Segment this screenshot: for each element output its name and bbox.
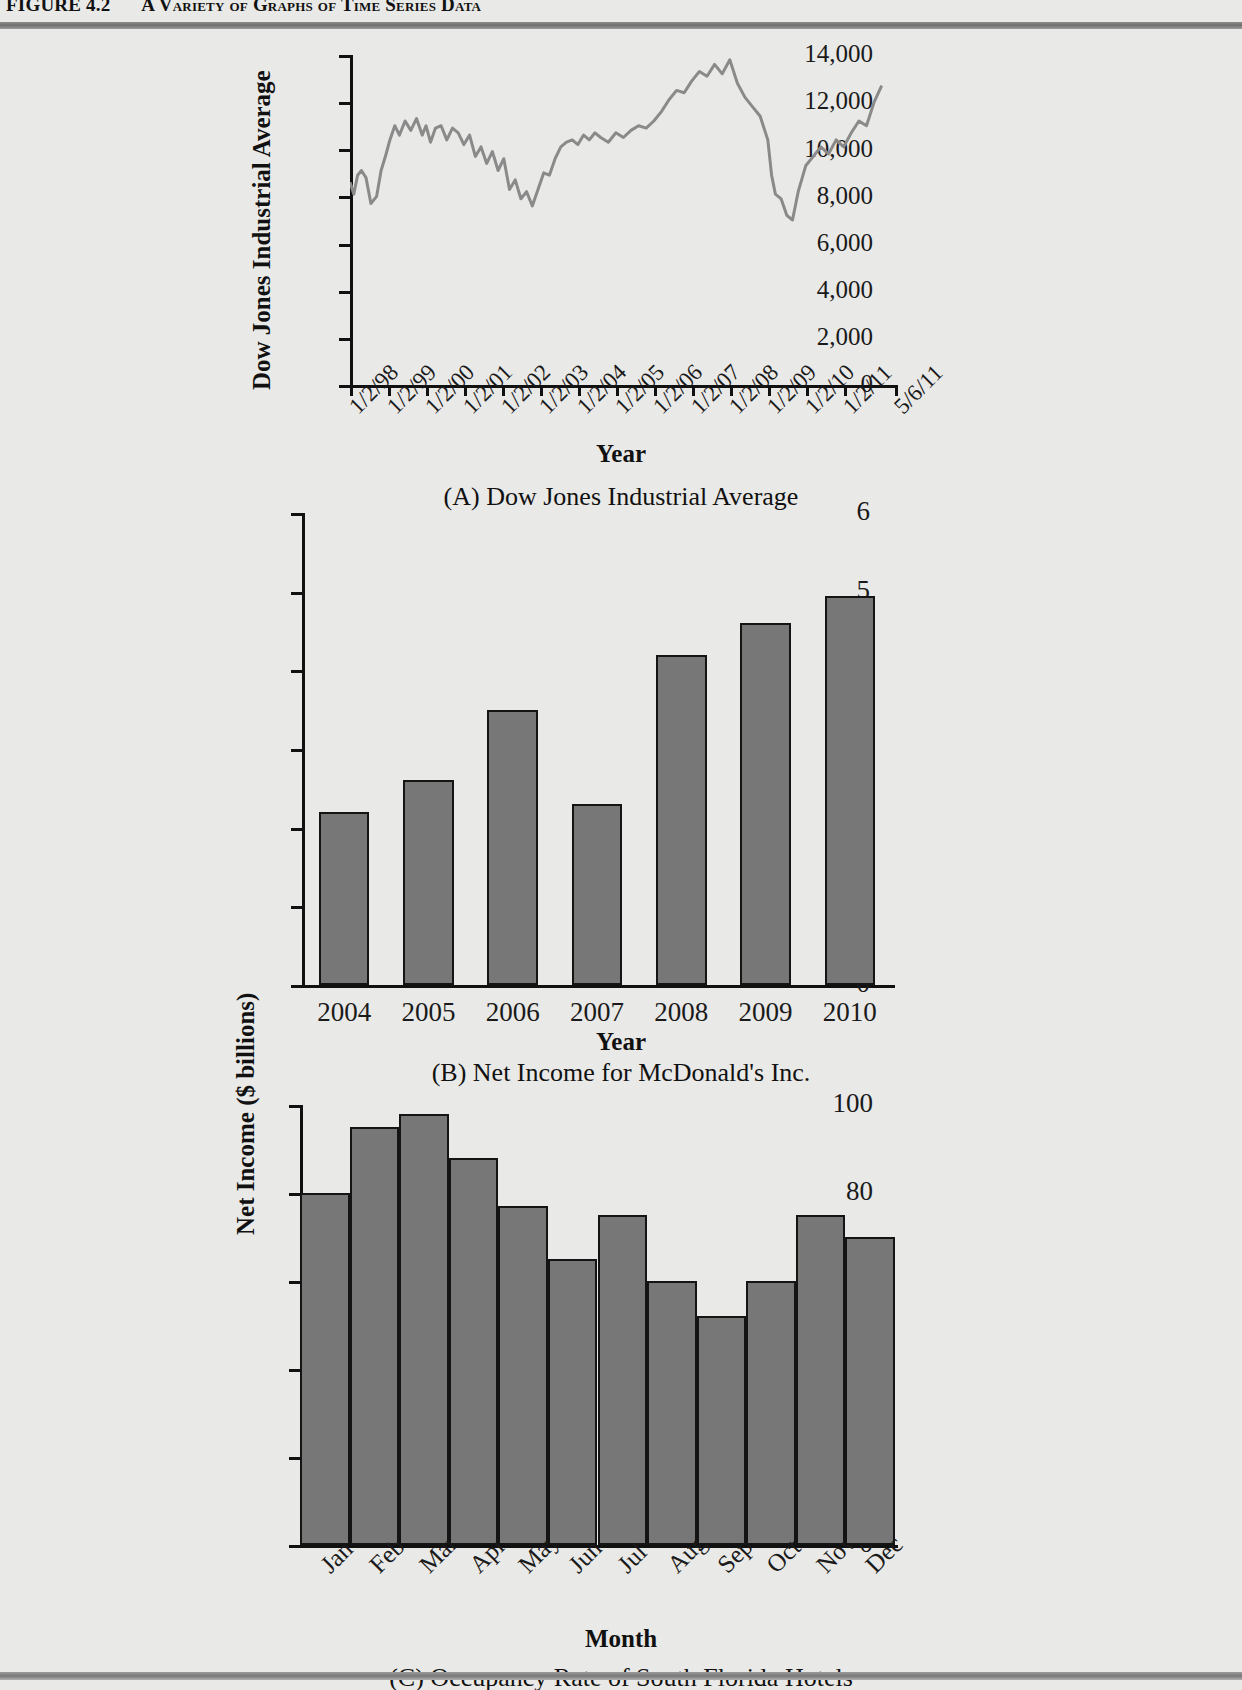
chart-c-y-tick (289, 1193, 300, 1196)
figure-header: FIGURE 4.2 A Variety of Graphs of Time S… (0, 0, 1242, 24)
chart-b-x-tick-label: 2004 (302, 997, 386, 1028)
chart-c-bar (548, 1259, 598, 1545)
chart-mcdonalds-net-income: Net Income ($ billions) 0123456200420052… (0, 505, 1242, 1085)
chart-c-y-tick (289, 1369, 300, 1372)
chart-c-bar (598, 1215, 648, 1545)
chart-b-bar (825, 596, 876, 985)
chart-b-x-tick-label: 2010 (808, 997, 892, 1028)
chart-a-y-tick (339, 149, 350, 152)
chart-c-y-tick (289, 1281, 300, 1284)
chart-b-y-tick-label: 6 (710, 498, 870, 525)
chart-a-y-axis-title: Dow Jones Industrial Average (248, 70, 276, 390)
chart-c-y-tick (289, 1545, 300, 1548)
chart-a-y-tick (339, 244, 350, 247)
chart-c-y-tick-label: 100 (713, 1090, 873, 1117)
chart-c-bar (697, 1316, 747, 1545)
chart-a-y-tick (339, 385, 350, 388)
chart-b-y-tick (291, 828, 302, 831)
figure-page: FIGURE 4.2 A Variety of Graphs of Time S… (0, 0, 1242, 1690)
chart-b-x-tick-label: 2005 (386, 997, 470, 1028)
chart-b-x-tick-label: 2007 (555, 997, 639, 1028)
chart-b-y-tick (291, 670, 302, 673)
chart-b-x-tick-label: 2008 (639, 997, 723, 1028)
chart-b-x-axis-title: Year (0, 1028, 1242, 1056)
chart-a-y-tick (339, 338, 350, 341)
chart-c-bar (300, 1193, 350, 1545)
chart-b-bar (403, 780, 454, 985)
chart-b-caption: (B) Net Income for McDonald's Inc. (0, 1058, 1242, 1088)
chart-b-bar (740, 623, 791, 985)
chart-c-bar (498, 1206, 548, 1545)
chart-dow-jones: Dow Jones Industrial Average 02,0004,000… (0, 40, 1242, 510)
chart-b-bar (319, 812, 370, 985)
chart-c-bar (647, 1281, 697, 1545)
header-rule (0, 22, 1242, 29)
chart-c-y-tick (289, 1105, 300, 1108)
chart-b-plot-area: 01234562004200520062007200820092010 (302, 513, 892, 985)
chart-b-y-axis (302, 513, 305, 988)
chart-a-y-tick (339, 291, 350, 294)
chart-a-line-series (350, 55, 901, 387)
footer-rule (0, 1672, 1242, 1680)
chart-a-plot-area: 02,0004,0006,0008,00010,00012,00014,0001… (350, 55, 895, 385)
chart-b-y-tick (291, 985, 302, 988)
chart-c-y-tick (289, 1457, 300, 1460)
chart-a-y-tick (339, 55, 350, 58)
chart-b-y-tick (291, 749, 302, 752)
chart-a-x-axis-title: Year (0, 440, 1242, 468)
chart-b-bar (487, 710, 538, 985)
chart-b-y-tick (291, 906, 302, 909)
chart-b-bar (656, 655, 707, 985)
chart-c-y-tick-label: 80 (713, 1178, 873, 1205)
chart-b-x-tick-label: 2006 (471, 997, 555, 1028)
chart-c-bar (796, 1215, 846, 1545)
chart-c-plot-area: 020406080100JanFebMarAprMayJunJulAugSepO… (300, 1105, 895, 1545)
chart-a-y-tick (339, 102, 350, 105)
chart-b-x-tick-label: 2009 (723, 997, 807, 1028)
chart-c-bar (845, 1237, 895, 1545)
chart-b-y-tick (291, 513, 302, 516)
chart-a-y-tick (339, 196, 350, 199)
chart-c-bar (746, 1281, 796, 1545)
chart-c-bar (399, 1114, 449, 1545)
chart-b-y-tick (291, 592, 302, 595)
chart-hotel-occupancy: Percentage Occupied 020406080100JanFebMa… (0, 1095, 1242, 1675)
chart-c-bar (350, 1127, 400, 1545)
chart-c-x-axis-title: Month (0, 1625, 1242, 1653)
figure-title: A Variety of Graphs of Time Series Data (141, 0, 481, 15)
chart-c-bar (449, 1158, 499, 1545)
figure-number: FIGURE 4.2 (6, 0, 110, 15)
chart-b-bar (572, 804, 623, 985)
